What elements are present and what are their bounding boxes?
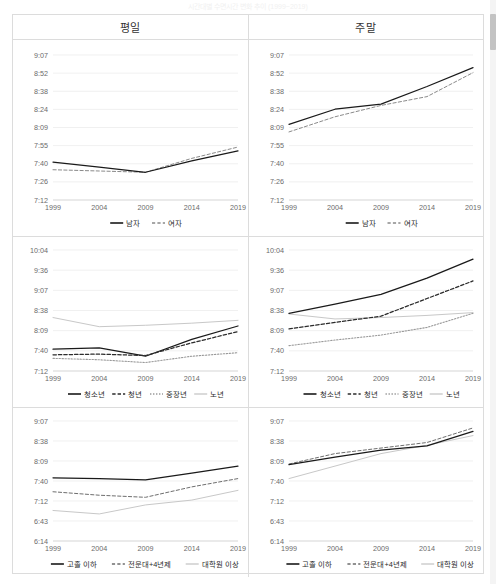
svg-text:7:40: 7:40 <box>270 159 284 168</box>
svg-text:2004: 2004 <box>91 374 107 383</box>
chart-cell-gender-weekend[interactable]: 7:127:267:407:558:098:248:388:529:071999… <box>248 40 483 236</box>
series-line-여자 <box>53 147 238 172</box>
chart-age-weekday[interactable]: 7:127:408:098:389:079:3610:0419992004200… <box>13 237 248 407</box>
svg-text:8:24: 8:24 <box>270 105 284 114</box>
legend-label-남자: 남자 <box>126 219 140 228</box>
scrollbar-thumb[interactable] <box>490 14 496 50</box>
series-line-노년 <box>53 318 238 327</box>
chart-cell-gender-weekday[interactable]: 7:127:267:407:558:098:248:388:529:071999… <box>13 40 248 236</box>
svg-text:6:43: 6:43 <box>34 517 48 526</box>
chart-cell-education-weekend[interactable]: 6:146:437:127:408:098:389:07199920042009… <box>248 408 483 577</box>
chart-age-weekend[interactable]: 7:127:408:098:389:079:3610:0419992004200… <box>249 237 483 407</box>
legend-label-청년: 청년 <box>128 390 142 399</box>
series-line-청년 <box>53 332 238 356</box>
svg-text:2009: 2009 <box>138 374 154 383</box>
svg-text:2004: 2004 <box>327 374 343 383</box>
series-line-여자 <box>289 73 473 132</box>
spreadsheet-canvas: 시간대별 수면시간 변화 추이 (1999~2019) 평일 주말 7:127:… <box>0 0 496 584</box>
scrollbar-track[interactable] <box>490 0 496 584</box>
svg-text:8:38: 8:38 <box>34 306 48 315</box>
chart-gender-weekday[interactable]: 7:127:267:407:558:098:248:388:529:071999… <box>13 40 248 236</box>
table-header-row: 평일 주말 <box>13 15 483 40</box>
legend-label-고졸 이하: 고졸 이하 <box>302 560 332 569</box>
chart-education-weekday[interactable]: 6:146:437:127:408:098:389:07199920042009… <box>13 408 248 577</box>
faint-header-strip: 시간대별 수면시간 변화 추이 (1999~2019) <box>0 0 496 13</box>
legend-label-여자: 여자 <box>404 219 418 228</box>
svg-text:2009: 2009 <box>138 544 154 553</box>
legend-label-전문대+4년제: 전문대+4년제 <box>128 560 171 569</box>
svg-text:7:40: 7:40 <box>34 159 48 168</box>
svg-text:8:09: 8:09 <box>34 457 48 466</box>
svg-text:6:43: 6:43 <box>270 517 284 526</box>
svg-text:9:07: 9:07 <box>34 286 48 295</box>
svg-text:9:07: 9:07 <box>270 286 284 295</box>
svg-text:2004: 2004 <box>327 544 343 553</box>
series-line-고졸 이하 <box>53 466 238 480</box>
svg-text:2019: 2019 <box>465 203 481 212</box>
svg-text:1999: 1999 <box>281 203 297 212</box>
svg-text:7:26: 7:26 <box>270 177 284 186</box>
svg-text:2014: 2014 <box>419 203 435 212</box>
chart-row-gender: 7:127:267:407:558:098:248:388:529:071999… <box>13 40 483 237</box>
svg-text:9:07: 9:07 <box>34 51 48 60</box>
svg-text:9:36: 9:36 <box>270 266 284 275</box>
svg-text:9:07: 9:07 <box>270 417 284 426</box>
svg-text:2019: 2019 <box>230 544 246 553</box>
svg-text:2014: 2014 <box>184 203 200 212</box>
legend-label-청년: 청년 <box>364 390 378 399</box>
svg-text:1999: 1999 <box>45 203 61 212</box>
chart-gender-weekend[interactable]: 7:127:267:407:558:098:248:388:529:071999… <box>249 40 483 236</box>
svg-text:7:40: 7:40 <box>270 346 284 355</box>
svg-text:7:12: 7:12 <box>270 497 284 506</box>
legend-label-고졸 이하: 고졸 이하 <box>67 560 97 569</box>
svg-text:2009: 2009 <box>373 203 389 212</box>
svg-text:8:24: 8:24 <box>34 105 48 114</box>
legend-label-청소년: 청소년 <box>320 390 341 399</box>
svg-text:8:52: 8:52 <box>34 69 48 78</box>
legend-label-중장년: 중장년 <box>166 390 187 399</box>
legend-label-남자: 남자 <box>362 219 376 228</box>
chart-row-education: 6:146:437:127:408:098:389:07199920042009… <box>13 408 483 577</box>
svg-text:2019: 2019 <box>230 203 246 212</box>
column-header-weekend: 주말 <box>248 15 484 39</box>
series-line-남자 <box>289 68 473 125</box>
svg-text:2004: 2004 <box>91 544 107 553</box>
svg-text:2019: 2019 <box>230 374 246 383</box>
svg-text:8:52: 8:52 <box>270 69 284 78</box>
svg-text:2014: 2014 <box>184 544 200 553</box>
svg-text:7:40: 7:40 <box>270 477 284 486</box>
svg-text:8:38: 8:38 <box>270 437 284 446</box>
svg-text:7:40: 7:40 <box>34 477 48 486</box>
svg-text:8:09: 8:09 <box>34 123 48 132</box>
svg-text:8:09: 8:09 <box>270 326 284 335</box>
legend-label-중장년: 중장년 <box>402 390 423 399</box>
svg-text:8:38: 8:38 <box>270 306 284 315</box>
svg-text:7:26: 7:26 <box>34 177 48 186</box>
series-line-청소년 <box>289 259 473 313</box>
legend-label-전문대+4년제: 전문대+4년제 <box>363 560 406 569</box>
series-line-전문대+4년제 <box>53 479 238 498</box>
svg-text:2009: 2009 <box>373 374 389 383</box>
legend-label-노년: 노년 <box>210 390 224 399</box>
svg-text:7:55: 7:55 <box>34 141 48 150</box>
svg-text:2014: 2014 <box>184 374 200 383</box>
svg-text:2014: 2014 <box>419 544 435 553</box>
chart-cell-education-weekday[interactable]: 6:146:437:127:408:098:389:07199920042009… <box>13 408 248 577</box>
svg-text:10:04: 10:04 <box>30 246 48 255</box>
svg-text:1999: 1999 <box>281 544 297 553</box>
svg-text:7:55: 7:55 <box>270 141 284 150</box>
svg-text:2014: 2014 <box>419 374 435 383</box>
svg-text:2019: 2019 <box>465 544 481 553</box>
svg-text:2004: 2004 <box>91 203 107 212</box>
legend-label-대학원 이상: 대학원 이상 <box>202 560 239 569</box>
svg-text:2019: 2019 <box>465 374 481 383</box>
svg-text:1999: 1999 <box>281 374 297 383</box>
chart-cell-age-weekend[interactable]: 7:127:408:098:389:079:3610:0419992004200… <box>248 237 483 407</box>
chart-cell-age-weekday[interactable]: 7:127:408:098:389:079:3610:0419992004200… <box>13 237 248 407</box>
legend-label-노년: 노년 <box>446 390 460 399</box>
chart-education-weekend[interactable]: 6:146:437:127:408:098:389:07199920042009… <box>249 408 483 577</box>
faint-header-text: 시간대별 수면시간 변화 추이 (1999~2019) <box>0 0 496 13</box>
svg-text:8:09: 8:09 <box>270 123 284 132</box>
series-line-중장년 <box>289 313 473 345</box>
series-line-전문대+4년제 <box>289 428 473 464</box>
